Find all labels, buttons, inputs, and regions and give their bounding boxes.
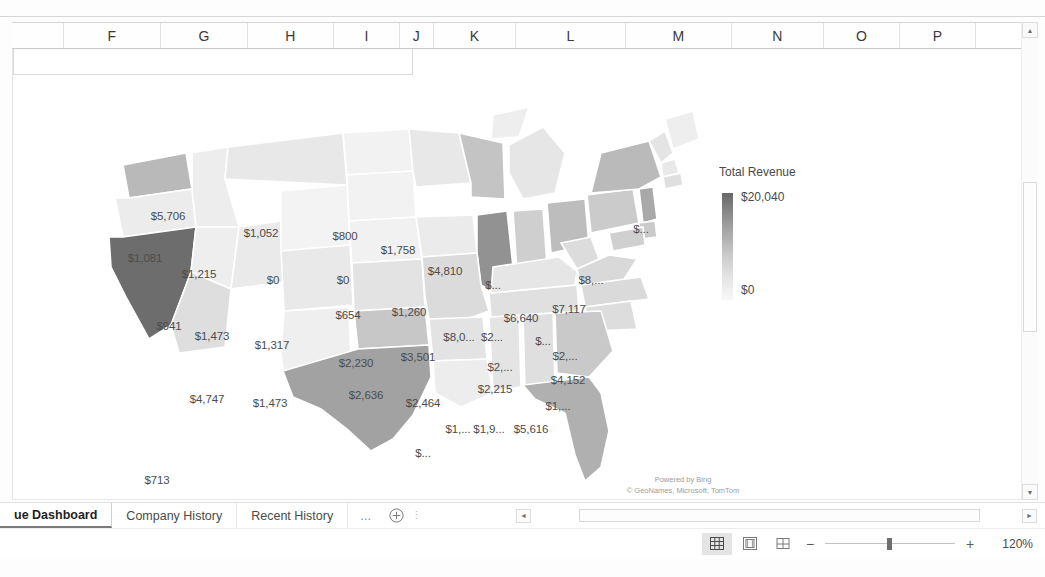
plus-circle-glyph [389, 508, 404, 523]
vertical-scrollbar[interactable]: ▲ ▼ [1021, 22, 1037, 500]
column-header-j[interactable]: J [400, 23, 434, 48]
legend-gradient-bar [722, 193, 733, 300]
column-header-g[interactable]: G [161, 23, 248, 48]
zoom-slider-thumb[interactable] [887, 538, 892, 550]
horizontal-scrollbar[interactable]: ◄ ► [516, 508, 1037, 523]
zoom-out-button[interactable]: − [801, 536, 819, 552]
column-header-p[interactable]: P [900, 23, 976, 48]
column-header-row: FGHIJKLMNOP [12, 22, 1022, 49]
legend-max-label: $20,040 [741, 190, 784, 204]
worksheet-grid[interactable]: $5,706$1,052$800$1,758$...$1,081$1,215$0… [12, 49, 1022, 500]
page-break-preview-icon[interactable] [768, 533, 798, 555]
sheet-tab-overflow-ellipsis[interactable]: ... [348, 503, 383, 528]
column-header-o[interactable]: O [824, 23, 900, 48]
column-header-l[interactable]: L [516, 23, 626, 48]
attribution-sources: © GeoNames, Microsoft, TomTom [583, 486, 783, 497]
selected-cell-range[interactable] [13, 49, 413, 75]
legend-title: Total Revenue [719, 165, 893, 179]
column-header-partial[interactable] [12, 23, 64, 48]
page-layout-view-icon[interactable] [735, 533, 765, 555]
column-header-i[interactable]: I [334, 23, 400, 48]
tab-split-grip[interactable]: ⋮ [409, 503, 423, 528]
scroll-up-arrow-icon[interactable]: ▲ [1022, 22, 1038, 38]
map-attribution: Powered by Bing © GeoNames, Microsoft, T… [583, 475, 783, 497]
column-header-m[interactable]: M [626, 23, 732, 48]
page-break-glyph [776, 537, 790, 550]
page-layout-glyph [743, 537, 757, 550]
column-header-k[interactable]: K [434, 23, 516, 48]
window-top-edge [0, 16, 1045, 17]
status-bar: − + 120% [0, 528, 1045, 558]
attribution-powered-by: Powered by Bing [583, 475, 783, 486]
zoom-level-label[interactable]: 120% [987, 537, 1033, 551]
column-header-f[interactable]: F [64, 23, 161, 48]
scroll-down-arrow-icon[interactable]: ▼ [1022, 484, 1038, 500]
scroll-left-arrow-icon[interactable]: ◄ [516, 509, 531, 523]
legend-min-label: $0 [741, 283, 754, 297]
scroll-right-arrow-icon[interactable]: ► [1022, 509, 1037, 523]
usa-choropleth-map [53, 75, 773, 487]
map-canvas[interactable]: $5,706$1,052$800$1,758$...$1,081$1,215$0… [13, 75, 1021, 499]
column-header-h[interactable]: H [248, 23, 334, 48]
excel-window: FGHIJKLMNOP [0, 0, 1045, 577]
sheet-tab-company-history[interactable]: Company History [112, 503, 237, 528]
vertical-scrollbar-thumb[interactable] [1023, 182, 1037, 332]
sheet-tab-ue-dashboard[interactable]: ue Dashboard [0, 503, 112, 528]
grid-glyph [710, 537, 724, 550]
add-sheet-icon[interactable] [383, 503, 409, 528]
normal-view-icon[interactable] [702, 533, 732, 555]
map-chart-object[interactable]: $5,706$1,052$800$1,758$...$1,081$1,215$0… [13, 75, 1022, 500]
horizontal-scrollbar-thumb[interactable] [579, 509, 980, 522]
map-legend: Total Revenue $20,040 $0 [713, 165, 893, 315]
zoom-slider[interactable] [825, 537, 955, 551]
zoom-in-button[interactable]: + [961, 536, 979, 552]
column-header-n[interactable]: N [732, 23, 824, 48]
sheet-tab-recent-history[interactable]: Recent History [237, 503, 348, 528]
